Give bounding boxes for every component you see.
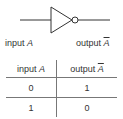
input-label-var: A (27, 38, 33, 48)
input-label-prefix: input (5, 38, 27, 48)
header-input: input A (6, 60, 57, 78)
truth-table: input A output A 0 1 1 0 (6, 60, 117, 117)
inversion-bubble-icon (72, 17, 78, 23)
cell-output: 0 (57, 98, 117, 118)
output-label-prefix: output (76, 38, 104, 48)
header-output-var-negated: A (98, 64, 104, 74)
cell-input: 0 (6, 78, 57, 98)
output-label-var-negated: A (104, 38, 110, 48)
input-label: input A (5, 38, 33, 48)
table-row: 0 1 (6, 78, 117, 98)
truth-table-header-row: input A output A (6, 60, 117, 78)
header-input-var: A (39, 64, 45, 74)
output-label: output A (76, 38, 110, 48)
header-output-prefix: output (70, 64, 98, 74)
cell-output: 1 (57, 78, 117, 98)
cell-input: 1 (6, 98, 57, 118)
header-output: output A (57, 60, 117, 78)
table-row: 1 0 (6, 98, 117, 118)
buffer-triangle-icon (51, 7, 72, 33)
not-gate-symbol (0, 0, 123, 40)
header-input-prefix: input (17, 64, 39, 74)
